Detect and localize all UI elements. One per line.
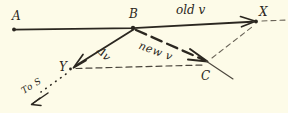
delta-v-line [76, 30, 134, 66]
new-v-line [136, 30, 204, 60]
old-v-line [14, 22, 252, 30]
to-s-arrowhead [32, 98, 42, 106]
diagram-canvas: A B X Y C old v Δv new v To S [0, 0, 288, 113]
delta-v-arrowhead [74, 55, 87, 68]
c-through-line [206, 61, 233, 79]
point-dot-y [69, 68, 72, 71]
diagram-vector-layer [0, 0, 288, 113]
c-to-x-dashed-guide [212, 27, 252, 58]
y-to-c-dashed-guide [76, 65, 203, 69]
to-s-dotted-line [41, 74, 66, 92]
x-extension-dashed [262, 20, 288, 21]
